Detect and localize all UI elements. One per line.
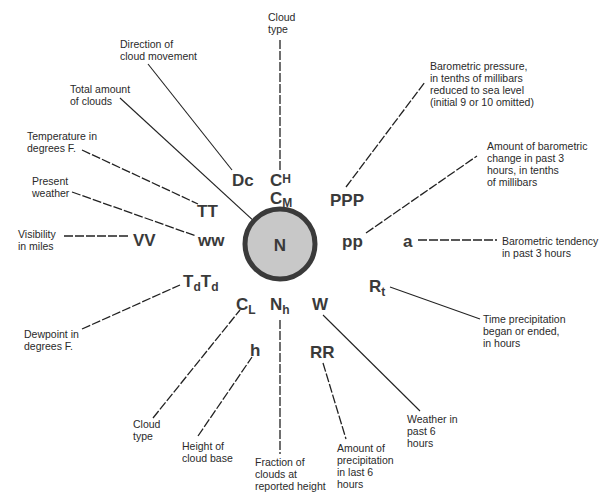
symbol-ppp: PPP — [330, 191, 364, 210]
symbol-nh: Nh — [270, 295, 290, 317]
symbol-a: a — [403, 232, 413, 251]
symbol-ch: CH — [270, 171, 291, 190]
symbol-h: h — [250, 341, 260, 360]
label-past-weather: Weather inpast 6hours — [407, 413, 458, 449]
line-total-clouds — [120, 98, 270, 236]
label-pressure: Barometric pressure,in tenths of milliba… — [430, 60, 534, 108]
symbol-ww: ww — [197, 231, 225, 250]
station-model-diagram: N Dc CH CM PPP pp a TT ww VV TdTd CL Nh … — [0, 0, 613, 496]
line-direction-cloud — [148, 64, 232, 170]
symbol-tdtd: TdTd — [183, 272, 218, 294]
line-dewpoint — [82, 285, 180, 329]
line-cloud-type-low — [153, 310, 240, 418]
label-dewpoint: Dewpoint indegrees F. — [24, 328, 79, 352]
symbol-w: W — [312, 295, 329, 314]
symbol-tt: TT — [197, 202, 218, 221]
label-cloud-type-low: Cloudtype — [133, 418, 161, 442]
label-temperature: Temperature indegrees F. — [27, 130, 97, 154]
symbol-dc: Dc — [232, 171, 254, 190]
line-past-weather — [323, 315, 420, 411]
label-precip-amount: Amount ofprecipitationin last 6hours — [337, 442, 394, 490]
symbol-pp: pp — [342, 232, 363, 251]
line-pressure-change — [366, 156, 477, 233]
symbol-rt: Rt — [369, 277, 385, 299]
symbol-cl: CL — [236, 295, 256, 317]
symbol-vv: VV — [133, 231, 156, 250]
symbol-rr: RR — [310, 343, 335, 362]
label-visibility: Visibilityin miles — [18, 228, 56, 252]
symbol-cm: CM — [270, 189, 292, 210]
label-pressure-change: Amount of barometricchange in past 3hour… — [487, 140, 587, 188]
line-precip-amount — [323, 363, 346, 439]
label-tendency: Barometric tendencyin past 3 hours — [502, 235, 599, 259]
label-precip-time: Time precipitationbegan or ended,in hour… — [483, 313, 566, 349]
label-present-weather: Presentweather — [31, 175, 70, 199]
label-cloud-base: Height ofcloud base — [182, 440, 233, 464]
label-cloud-type-high: Cloudtype — [268, 11, 296, 35]
line-cloud-base — [198, 357, 252, 436]
label-total-clouds: Total amountof clouds — [70, 83, 130, 107]
symbol-n: N — [274, 236, 286, 255]
line-temperature — [82, 150, 198, 204]
label-fraction-clouds: Fraction ofclouds atreported height — [255, 456, 326, 492]
line-present-weather — [72, 192, 196, 236]
line-pressure — [346, 82, 425, 187]
line-precip-time — [390, 287, 480, 319]
label-direction-cloud: Direction ofcloud movement — [120, 38, 197, 62]
